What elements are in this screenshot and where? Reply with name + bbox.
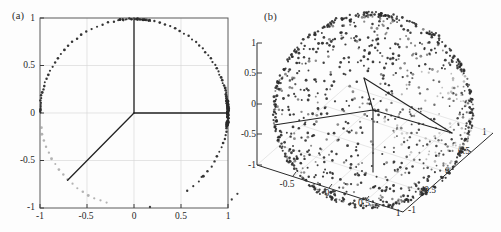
panel-a: (a) 1 0.5 0 -0.5 -1 -1 -0.5 0 0.5 1 — [0, 0, 245, 232]
radius-line-lower-left — [68, 113, 134, 180]
panel-b: (b) 1 0.5 0 -0.5 -1 -0.5 0 0.5 1 -1 -0.5… — [240, 0, 501, 232]
panel-a-radius-lines — [68, 18, 228, 180]
panel-b-floor-grid — [257, 86, 493, 200]
figure-root: (a) 1 0.5 0 -0.5 -1 -1 -0.5 0 0.5 1 — [0, 0, 501, 232]
panel-b-canvas — [240, 0, 501, 232]
panel-b-center-vectors — [274, 78, 452, 172]
axis-vector-x — [274, 110, 373, 125]
panel-a-canvas — [0, 0, 245, 232]
axis-vector-edge — [364, 78, 452, 133]
